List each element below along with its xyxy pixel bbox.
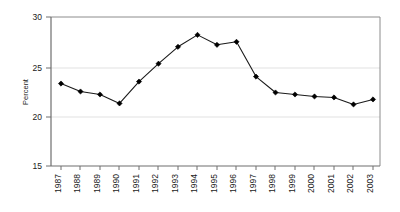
x-tick-label-1990: 1990 — [111, 174, 121, 193]
x-tick-label-1993: 1993 — [170, 174, 180, 193]
y-tick-label-15: 15 — [33, 161, 43, 171]
y-tick-label-25: 25 — [33, 63, 43, 73]
x-tick-label-1988: 1988 — [72, 174, 82, 193]
x-tick-label-1995: 1995 — [209, 174, 219, 193]
x-tick-label-1999: 1999 — [287, 174, 297, 193]
x-tick-label-1992: 1992 — [150, 174, 160, 193]
x-tick-label-2003: 2003 — [365, 174, 375, 193]
chart-canvas: 30 25 20 15 Percent 1987 1988 — [0, 0, 400, 212]
x-tick-label-2001: 2001 — [326, 174, 336, 193]
x-tick-label-2002: 2002 — [345, 174, 355, 193]
x-tick-label-1998: 1998 — [267, 174, 277, 193]
x-tick-label-1997: 1997 — [248, 174, 258, 193]
x-tick-label-1996: 1996 — [228, 174, 238, 193]
x-tick-label-1994: 1994 — [189, 174, 199, 193]
x-tick-label-2000: 2000 — [306, 174, 316, 193]
x-tick-label-1991: 1991 — [131, 174, 141, 193]
y-axis-title: Percent — [21, 78, 30, 105]
x-tick-label-1989: 1989 — [92, 174, 102, 193]
line-chart-figure: 30 25 20 15 Percent 1987 1988 — [0, 0, 400, 212]
y-tick-label-20: 20 — [33, 112, 43, 122]
y-tick-label-30: 30 — [33, 12, 43, 22]
x-tick-label-1987: 1987 — [53, 174, 63, 193]
